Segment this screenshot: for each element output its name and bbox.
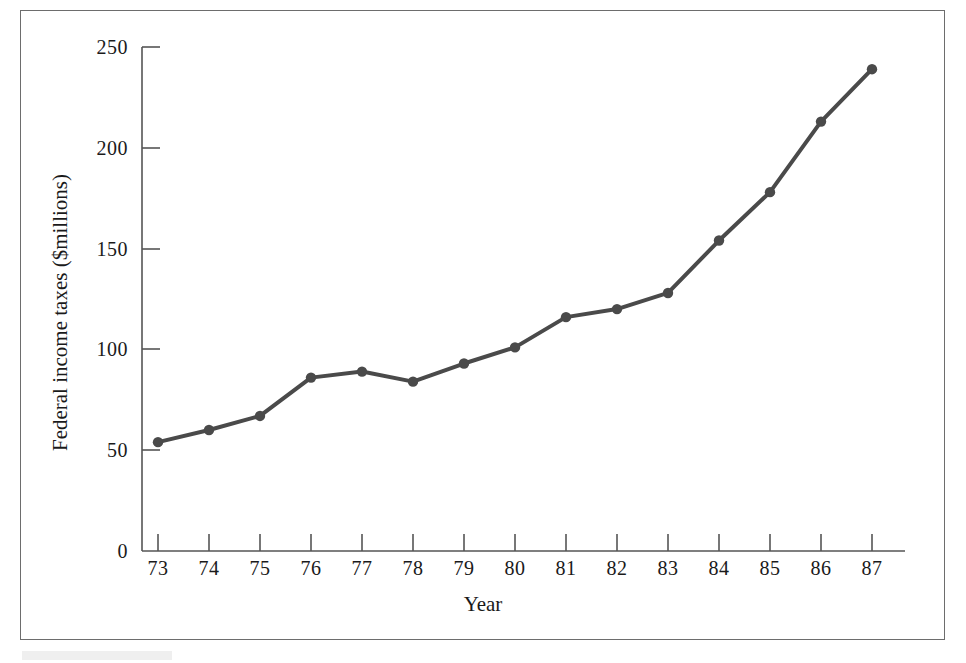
x-tick-label: 74 — [186, 558, 232, 578]
x-tick-label: 87 — [849, 558, 895, 578]
data-point — [612, 304, 622, 314]
data-point — [357, 366, 367, 376]
y-axis-ticks — [142, 47, 160, 450]
data-point — [255, 411, 265, 421]
x-tick-label: 76 — [288, 558, 334, 578]
y-tick-label: 50 — [68, 440, 128, 460]
y-axis-title: Federal income taxes ($millions) — [48, 148, 73, 478]
data-point — [867, 64, 877, 74]
x-tick-label: 75 — [237, 558, 283, 578]
x-tick-label: 82 — [594, 558, 640, 578]
y-tick-label: 150 — [68, 239, 128, 259]
data-point — [663, 288, 673, 298]
data-point — [153, 437, 163, 447]
data-point — [510, 342, 520, 352]
data-point — [561, 312, 571, 322]
y-tick-label: 200 — [68, 138, 128, 158]
data-point — [306, 372, 316, 382]
x-tick-label: 83 — [645, 558, 691, 578]
x-tick-label: 73 — [135, 558, 181, 578]
x-tick-label: 77 — [339, 558, 385, 578]
x-tick-label: 86 — [798, 558, 844, 578]
y-tick-label: 0 — [68, 541, 128, 561]
data-point-markers — [153, 64, 877, 447]
y-tick-label: 250 — [68, 37, 128, 57]
x-tick-label: 80 — [492, 558, 538, 578]
x-tick-label: 78 — [390, 558, 436, 578]
data-point — [204, 425, 214, 435]
x-axis-title: Year — [0, 592, 966, 617]
page-smudge — [22, 651, 172, 660]
x-tick-label: 81 — [543, 558, 589, 578]
x-tick-label: 85 — [747, 558, 793, 578]
x-tick-label: 79 — [441, 558, 487, 578]
data-point — [714, 235, 724, 245]
data-point — [816, 116, 826, 126]
data-point — [408, 376, 418, 386]
x-tick-label: 84 — [696, 558, 742, 578]
data-point — [459, 358, 469, 368]
y-tick-label: 100 — [68, 339, 128, 359]
x-axis-ticks — [158, 534, 872, 551]
data-point — [765, 187, 775, 197]
data-series-line — [158, 69, 872, 442]
